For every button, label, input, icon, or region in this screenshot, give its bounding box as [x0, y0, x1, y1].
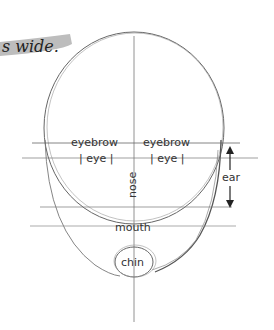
- chin-label: chin: [121, 256, 144, 269]
- diagram-drawing: s wide. eyebrow eyebrow | eye | | eye | …: [0, 0, 274, 330]
- ear-label: ear: [222, 171, 241, 184]
- eye-left-label: | eye |: [79, 152, 113, 165]
- ear-arrow-up-icon: [226, 146, 234, 154]
- jaw-outline-right-sketch: [152, 150, 218, 270]
- eye-right-label: | eye |: [150, 152, 184, 165]
- nose-label: nose: [126, 172, 139, 198]
- banner-text: s wide.: [2, 37, 59, 56]
- eyebrow-right-label: eyebrow: [143, 136, 190, 149]
- face-proportion-diagram: s wide. eyebrow eyebrow | eye | | eye | …: [0, 0, 274, 330]
- mouth-label: mouth: [115, 221, 151, 234]
- eyebrow-left-label: eyebrow: [71, 136, 118, 149]
